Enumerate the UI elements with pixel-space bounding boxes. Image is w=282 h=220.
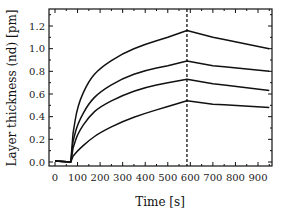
y-axis-label: Layer thickness (nd) [pm] [5, 10, 19, 167]
x-tick-label: 600 [181, 172, 200, 183]
x-tick-label: 400 [136, 172, 155, 183]
y-tick-label: 1.2 [29, 21, 45, 32]
x-tick-label: 500 [158, 172, 177, 183]
data-series [55, 31, 269, 163]
plot-frame [49, 9, 272, 166]
y-axis-tick-labels: 0.00.20.40.60.81.01.2 [29, 21, 45, 168]
x-tick-label: 700 [203, 172, 222, 183]
y-tick-label: 0.8 [29, 66, 45, 77]
y-tick-label: 0.6 [29, 89, 45, 100]
y-tick-label: 0.4 [29, 111, 45, 122]
series-line-curve-2 [55, 61, 269, 162]
x-tick-label: 200 [91, 172, 110, 183]
y-tick-label: 0.0 [29, 157, 45, 168]
y-tick-label: 1.0 [29, 43, 45, 54]
x-tick-label: 900 [248, 172, 267, 183]
x-axis-label: Time [s] [135, 195, 185, 209]
x-axis-tick-labels: 0100200300400500600700800900 [52, 172, 268, 183]
x-tick-label: 100 [68, 172, 87, 183]
series-line-curve-4 [55, 101, 269, 162]
chart: 0100200300400500600700800900 0.00.20.40.… [0, 0, 282, 220]
x-tick-label: 300 [113, 172, 132, 183]
x-tick-label: 800 [226, 172, 245, 183]
y-tick-label: 0.2 [29, 134, 45, 145]
series-line-curve-3 [55, 79, 269, 162]
y-axis-ticks [49, 15, 272, 162]
x-tick-label: 0 [52, 172, 58, 183]
